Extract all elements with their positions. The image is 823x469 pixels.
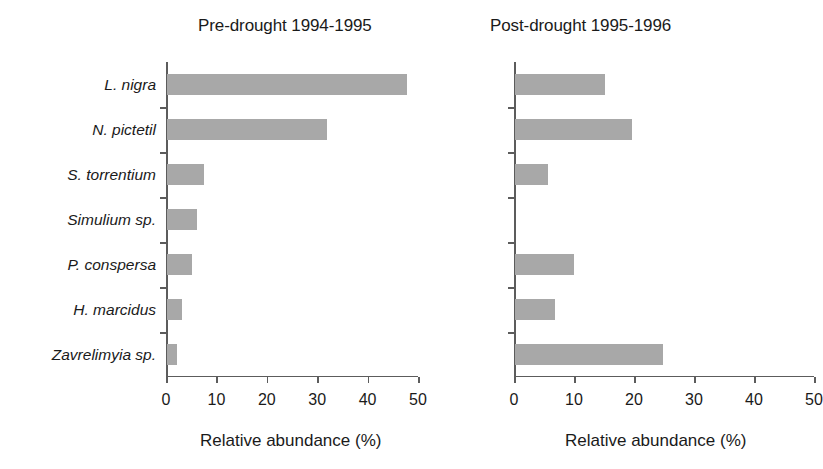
y-axis-tick — [508, 197, 514, 199]
category-label: Simulium sp. — [67, 211, 156, 229]
y-axis-tick — [160, 152, 166, 154]
x-axis-tick-label: 0 — [510, 391, 519, 409]
y-axis-tick — [160, 332, 166, 334]
category-label: L. nigra — [104, 76, 156, 94]
panel-pre-drought: Pre-drought 1994-1995 01020304050 Relati… — [0, 0, 445, 469]
x-axis-tick — [267, 377, 269, 383]
x-axis-tick-label: 0 — [162, 391, 171, 409]
x-axis-tick-label: 10 — [207, 391, 225, 409]
x-axis-tick — [814, 377, 816, 383]
y-axis-tick — [508, 152, 514, 154]
bar — [515, 254, 574, 275]
bar — [515, 344, 663, 365]
x-axis-tick-label: 10 — [565, 391, 583, 409]
bar — [515, 119, 632, 140]
x-axis-tick — [574, 377, 576, 383]
bar-row — [167, 242, 192, 287]
category-label: Zavrelimyia sp. — [52, 346, 156, 364]
category-label: P. conspersa — [68, 256, 156, 274]
x-axis-line-left — [166, 376, 418, 378]
bar-row — [167, 197, 197, 242]
plot-area-post-drought: 01020304050 — [514, 62, 814, 377]
x-axis-tick — [694, 377, 696, 383]
x-axis-tick-label: 50 — [805, 391, 823, 409]
panel-post-drought: Post-drought 1995-1996 01020304050 Relat… — [445, 0, 809, 469]
bar — [167, 344, 177, 365]
x-axis-tick-label: 30 — [308, 391, 326, 409]
bar-row — [515, 242, 574, 287]
panel-title-pre-drought: Pre-drought 1994-1995 — [198, 16, 372, 36]
category-label: S. torrentium — [67, 166, 156, 184]
bar-row — [515, 332, 663, 377]
bar-row — [515, 287, 555, 332]
category-label: H. marcidus — [73, 301, 156, 319]
y-axis-tick — [508, 332, 514, 334]
x-axis-title-left: Relative abundance (%) — [200, 431, 381, 451]
x-axis-tick-label: 20 — [258, 391, 276, 409]
bar — [515, 299, 555, 320]
y-axis-tick — [508, 287, 514, 289]
bar — [167, 74, 407, 95]
bar — [167, 209, 197, 230]
y-axis-tick — [160, 107, 166, 109]
bar — [515, 74, 605, 95]
bar-row — [515, 107, 632, 152]
y-axis-tick — [508, 107, 514, 109]
x-axis-tick — [368, 377, 370, 383]
bar — [167, 299, 182, 320]
x-axis-tick — [514, 377, 516, 383]
y-axis-tick — [508, 242, 514, 244]
bar-row — [515, 152, 548, 197]
bar-row — [167, 287, 182, 332]
y-axis-tick — [160, 287, 166, 289]
x-axis-tick-label: 20 — [625, 391, 643, 409]
x-axis-title-right: Relative abundance (%) — [565, 431, 746, 451]
bar — [515, 164, 548, 185]
x-axis-tick — [418, 377, 420, 383]
category-label: N. pictetil — [92, 121, 156, 139]
bar-row — [167, 332, 177, 377]
bar-row — [515, 62, 605, 107]
bar — [167, 254, 192, 275]
x-axis-tick — [317, 377, 319, 383]
plot-area-pre-drought: 01020304050 — [166, 62, 418, 377]
y-axis-tick — [160, 197, 166, 199]
x-axis-tick-label: 40 — [359, 391, 377, 409]
bar — [167, 119, 327, 140]
x-axis-tick-label: 50 — [409, 391, 427, 409]
bar-row — [167, 62, 407, 107]
bar — [167, 164, 204, 185]
bar-row — [167, 152, 204, 197]
bar-row — [167, 107, 327, 152]
panel-title-post-drought: Post-drought 1995-1996 — [490, 16, 671, 36]
y-axis-tick — [160, 242, 166, 244]
x-axis-tick — [754, 377, 756, 383]
x-axis-tick-label: 40 — [745, 391, 763, 409]
x-axis-tick — [166, 377, 168, 383]
x-axis-tick-label: 30 — [685, 391, 703, 409]
x-axis-tick — [634, 377, 636, 383]
x-axis-tick — [216, 377, 218, 383]
